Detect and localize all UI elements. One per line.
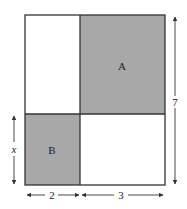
height-total-label: 7 [172,96,178,108]
width-left-label: 2 [49,189,55,201]
rectangle-diagram: A B 7 x 2 3 [0,0,187,209]
height-bottom-label: x [11,143,17,155]
region-a-label: A [118,60,126,72]
region-b-label: B [48,144,55,156]
width-right-label: 3 [118,189,124,201]
